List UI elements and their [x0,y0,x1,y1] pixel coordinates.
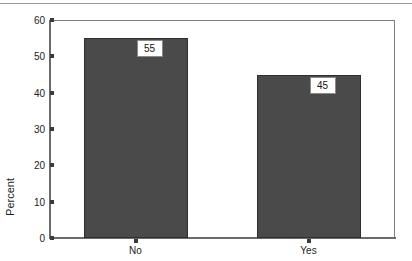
y-axis-tick-label: 20 [7,160,45,171]
x-axis-label-no: No [106,245,166,256]
y-axis-tick-mark [50,200,54,204]
bar-yes [257,75,361,239]
top-divider-rule [0,3,412,4]
y-axis-tick-label: 30 [7,124,45,135]
y-axis-tick-mark [50,127,54,131]
y-axis-tick-mark [50,18,54,22]
bar-chart-screenshot: 0102030405060 Percent 5545 NoYes [0,0,412,261]
x-axis-label-yes: Yes [279,245,339,256]
y-axis-tick-label: 40 [7,87,45,98]
y-axis-tick-label: 60 [7,15,45,26]
y-axis-tick-mark [50,236,54,240]
y-axis-tick-mark [50,163,54,167]
x-axis-tick-mark [134,239,138,243]
y-axis-tick-label: 50 [7,51,45,62]
y-axis-title: Percent [4,178,16,216]
bar-no [84,38,188,238]
y-axis-tick-mark [50,54,54,58]
y-axis-tick-label: 0 [7,233,45,244]
x-axis-tick-mark [307,239,311,243]
y-axis-tick-mark [50,91,54,95]
data-label-no: 55 [137,40,163,57]
data-label-yes: 45 [310,77,336,94]
